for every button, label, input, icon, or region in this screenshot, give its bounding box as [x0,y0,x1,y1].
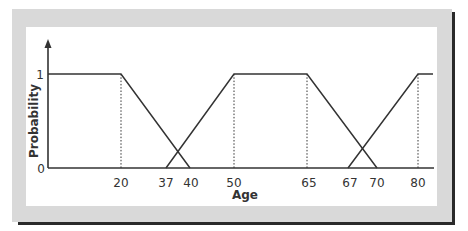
x-tick-67: 67 [342,176,357,190]
series-young [48,74,190,168]
x-tick-80: 80 [410,176,425,190]
y-tick-0: 0 [37,162,45,176]
series-old [348,74,433,168]
y-axis-arrow-icon [45,39,52,48]
membership-function-chart: 1 0 Probability 20 37 40 50 65 67 70 80 … [0,0,468,231]
x-tick-70: 70 [369,176,384,190]
series-middle-aged [166,74,377,168]
y-axis [45,39,52,168]
x-tick-20: 20 [113,176,128,190]
y-axis-title: Probability [27,84,41,158]
x-tick-65: 65 [301,176,316,190]
dotted-guides [121,74,418,168]
x-tick-37: 37 [158,176,173,190]
x-axis-title: Age [232,188,258,202]
x-tick-40: 40 [183,176,198,190]
y-tick-1: 1 [36,68,44,82]
